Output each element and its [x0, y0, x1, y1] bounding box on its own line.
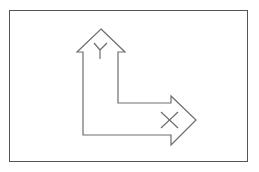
ucs-icon	[0, 0, 259, 172]
y-axis-glyph-icon	[94, 43, 107, 59]
x-axis-glyph-icon	[161, 112, 178, 128]
